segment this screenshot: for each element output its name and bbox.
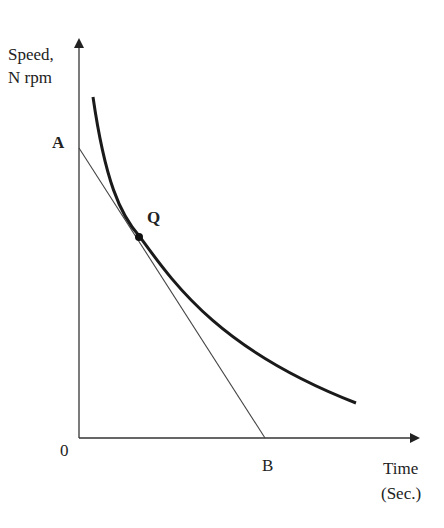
y-axis-label-line2: N rpm — [8, 67, 52, 89]
y-axis-label-line1: Speed, — [8, 44, 54, 66]
point-b-label: B — [262, 455, 273, 477]
tangent-line-ab — [79, 148, 265, 438]
decay-curve — [93, 97, 356, 403]
point-a-label: A — [52, 132, 64, 154]
point-q-dot — [135, 233, 143, 241]
x-axis-label-line1: Time — [383, 458, 418, 480]
origin-label: 0 — [60, 440, 69, 462]
point-q-label: Q — [147, 207, 160, 229]
x-axis-label-line2: (Sec.) — [381, 483, 421, 505]
